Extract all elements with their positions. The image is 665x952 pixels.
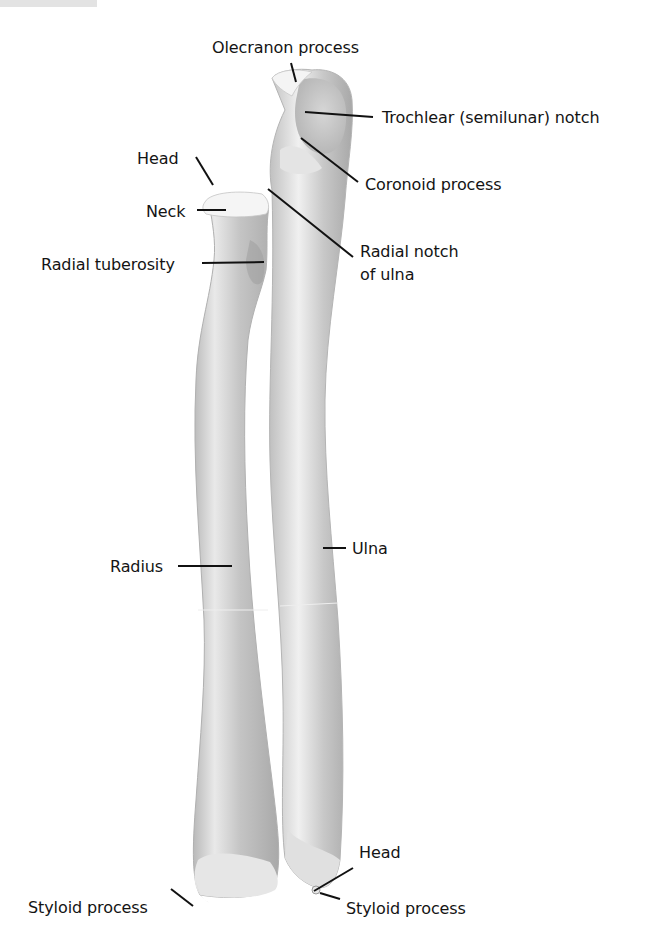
label-coronoid-process: Coronoid process — [365, 175, 501, 194]
label-neck: Neck — [146, 202, 185, 221]
label-radial-styloid-process: Styloid process — [28, 898, 148, 917]
label-radial-notch-line1: Radial notch — [360, 242, 458, 261]
leader-radial-styloid — [171, 889, 193, 906]
ulna-bone — [270, 69, 353, 894]
label-ulna: Ulna — [352, 539, 388, 558]
label-olecranon-process: Olecranon process — [212, 38, 359, 57]
radius-bone — [193, 192, 278, 903]
label-radial-notch-line2: of ulna — [360, 265, 414, 284]
label-radius: Radius — [110, 557, 163, 576]
forearm-bones-illustration — [0, 0, 665, 952]
leader-tuberosity — [202, 262, 264, 263]
leader-radial-head — [196, 157, 213, 185]
leader-ulnar-styloid — [320, 893, 340, 899]
label-ulnar-styloid-process: Styloid process — [346, 899, 466, 918]
label-trochlear-notch: Trochlear (semilunar) notch — [382, 108, 599, 127]
label-radial-tuberosity: Radial tuberosity — [41, 255, 175, 274]
label-radial-head: Head — [137, 149, 178, 168]
label-ulna-head: Head — [359, 843, 400, 862]
